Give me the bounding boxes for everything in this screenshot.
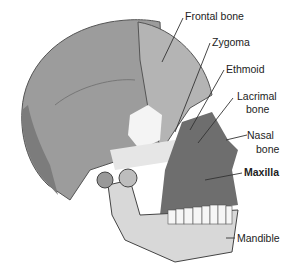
label-ethmoid: Ethmoid [226, 63, 265, 76]
label-zygoma: Zygoma [212, 36, 250, 49]
label-frontal-bone: Frontal bone [185, 10, 244, 23]
label-maxilla: Maxilla [244, 166, 279, 179]
label-nasal-line2: bone [256, 143, 279, 156]
label-lacrimal-line2: bone [246, 103, 269, 116]
label-mandible: Mandible [237, 232, 280, 245]
label-nasal: Nasal [247, 129, 274, 142]
label-lacrimal: Lacrimal [237, 90, 277, 103]
